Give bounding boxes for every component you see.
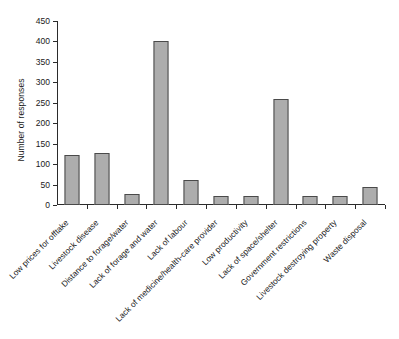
- bar-slot: [296, 21, 326, 205]
- plot-area: 050100150200250300350400450: [57, 21, 385, 205]
- x-axis-tick: [117, 205, 118, 209]
- bar: [64, 155, 79, 205]
- y-axis-tick-label: 0: [20, 200, 50, 210]
- bar-slot: [266, 21, 296, 205]
- bar-slot: [57, 21, 87, 205]
- bar-slot: [117, 21, 147, 205]
- y-axis-tick-label: 350: [20, 57, 50, 67]
- x-axis-tick: [355, 205, 356, 209]
- x-axis-tick: [176, 205, 177, 209]
- y-axis-tick-label: 300: [20, 77, 50, 87]
- x-axis-category-label: Distance to forage/water: [59, 217, 131, 289]
- x-axis-tick: [385, 205, 386, 209]
- x-axis-category-label: Waste disposal: [321, 217, 368, 264]
- bar: [273, 99, 288, 205]
- x-axis-category-label: Low productivity: [200, 217, 250, 267]
- y-axis-tick-label: 50: [20, 180, 50, 190]
- x-axis-category-label: Lack of forage and water: [87, 217, 160, 290]
- x-axis-tick: [236, 205, 237, 209]
- bar-slot: [206, 21, 236, 205]
- bar-slot: [87, 21, 117, 205]
- bar-slot: [355, 21, 385, 205]
- bar-slot: [236, 21, 266, 205]
- y-axis-tick-label: 250: [20, 98, 50, 108]
- y-axis-tick: [53, 205, 57, 206]
- bar-chart: Number of responses 05010015020025030035…: [0, 0, 399, 339]
- bar: [333, 196, 348, 205]
- bar: [213, 196, 228, 205]
- x-axis-category-label: Low prices for offtake: [7, 217, 71, 281]
- bar: [154, 41, 169, 205]
- y-axis-tick-label: 400: [20, 36, 50, 46]
- bar: [184, 180, 199, 205]
- x-axis-category-label: Livestock disease: [46, 217, 100, 271]
- x-axis-tick: [87, 205, 88, 209]
- x-axis-category-label: Lack of space/shelter: [216, 217, 279, 280]
- bar: [363, 187, 378, 205]
- bar: [94, 153, 109, 205]
- y-axis-tick-label: 450: [20, 16, 50, 26]
- x-axis-tick: [296, 205, 297, 209]
- x-axis-category-label: Lack of labour: [145, 217, 189, 261]
- bar: [243, 196, 258, 205]
- bar-slot: [146, 21, 176, 205]
- y-axis-tick-label: 200: [20, 118, 50, 128]
- y-axis-tick-label: 100: [20, 159, 50, 169]
- bar: [303, 196, 318, 205]
- bar-series: [57, 21, 385, 205]
- x-axis-tick: [325, 205, 326, 209]
- bar-slot: [325, 21, 355, 205]
- x-axis-category-label: Lack of medicine/health-care provider: [113, 217, 219, 323]
- y-axis-tick-label: 150: [20, 139, 50, 149]
- bar-slot: [176, 21, 206, 205]
- x-axis-category-label: Government restrictions: [239, 217, 309, 287]
- x-axis-category-label: Livestock destroying property: [254, 217, 338, 301]
- x-axis-tick: [206, 205, 207, 209]
- x-axis-tick: [146, 205, 147, 209]
- bar: [124, 194, 139, 205]
- x-axis-tick: [266, 205, 267, 209]
